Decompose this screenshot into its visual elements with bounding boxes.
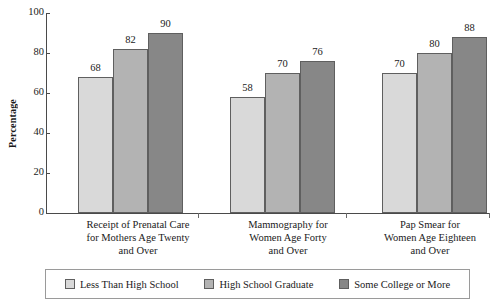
bar-g3-s2: 80 [417,53,452,213]
x-axis-line [46,213,490,214]
legend-label: High School Graduate [219,279,313,290]
y-tick-label: 20 [34,166,45,177]
y-tick-80: 80 [2,53,52,54]
y-tick-label: 40 [34,126,45,137]
legend-label: Some College or More [354,279,450,290]
y-axis-line [46,13,47,214]
bar-g3-s1: 70 [382,73,417,213]
bar-value-label: 76 [312,46,323,57]
bar-value-label: 68 [90,62,101,73]
legend-label: Less Than High School [80,279,179,290]
y-tick-20: 20 [2,173,52,174]
bar-g3-s3: 88 [452,37,487,213]
bar-g1-s1: 68 [78,77,113,213]
bar-chart-figure: Percentage 100 80 60 40 20 0 [0,0,501,306]
bar-value-label: 88 [464,22,475,33]
bar-value-label: 80 [429,38,440,49]
y-axis-label: Percentage [2,78,24,168]
y-tick-mark [46,213,50,214]
y-tick-label: 0 [39,206,44,217]
y-tick-mark [46,13,50,14]
y-tick-60: 60 [2,93,52,94]
y-tick-100: 100 [2,13,52,14]
plot-right-edge [489,13,490,214]
y-tick-mark [46,173,50,174]
bar-value-label: 82 [125,34,136,45]
legend-item-high-school-graduate: High School Graduate [204,279,313,290]
plot-area: 100 80 60 40 20 0 68 [46,13,490,213]
bar-g2-s1: 58 [230,97,265,213]
x-axis-group-label-3: Pap Smear for Women Age Eighteen and Ove… [342,218,501,257]
legend-item-less-than-high-school: Less Than High School [65,279,179,290]
legend-item-some-college-or-more: Some College or More [339,279,450,290]
y-tick-mark [46,93,50,94]
y-tick-mark [46,133,50,134]
bar-g2-s2: 70 [265,73,300,213]
bar-g1-s3: 90 [148,33,183,213]
y-tick-label: 60 [34,86,45,97]
chart-legend: Less Than High School High School Gradua… [45,269,470,299]
bar-value-label: 70 [394,58,405,69]
bar-g1-s2: 82 [113,49,148,213]
bar-value-label: 90 [160,18,171,29]
y-tick-mark [46,53,50,54]
bar-g2-s3: 76 [300,61,335,213]
y-tick-0: 0 [2,213,52,214]
legend-swatch-icon [204,279,214,289]
legend-swatch-icon [339,279,349,289]
legend-swatch-icon [65,279,75,289]
y-tick-label: 100 [28,6,44,17]
y-tick-40: 40 [2,133,52,134]
bar-value-label: 58 [242,82,253,93]
bar-value-label: 70 [277,58,288,69]
y-tick-label: 80 [34,46,45,57]
